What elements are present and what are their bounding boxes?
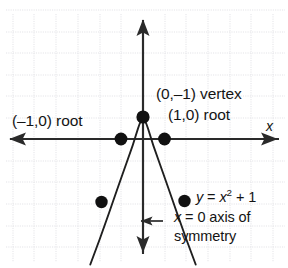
equation-tail: + 1	[236, 189, 256, 205]
equation-label: y = x2 + 1	[196, 190, 256, 206]
root-right-label: (1,0) root	[168, 107, 230, 124]
symmetry-label-line1: x = 0 axis of	[174, 210, 251, 226]
equation-y: y	[196, 189, 203, 205]
x-axis-label: x	[266, 119, 273, 134]
root-left-label: (–1,0) root	[12, 113, 82, 130]
equation-equals: =	[207, 189, 215, 205]
equation-exponent: 2	[227, 187, 232, 198]
coordinate-plot	[0, 0, 288, 268]
equation-x: x	[219, 189, 226, 205]
point-vertex	[136, 110, 149, 123]
parabola-figure: (0,–1) vertex (1,0) root (–1,0) root x y…	[0, 0, 288, 268]
symmetry-rest: = 0 axis of	[185, 209, 250, 225]
point-right-lower	[178, 195, 190, 207]
symmetry-label-line2: symmetry	[174, 229, 236, 245]
vertex-label: (0,–1) vertex	[156, 86, 242, 103]
point-root-right	[158, 133, 171, 146]
symmetry-x: x	[174, 209, 181, 225]
point-root-left	[115, 133, 128, 146]
point-left-lower	[95, 196, 107, 208]
